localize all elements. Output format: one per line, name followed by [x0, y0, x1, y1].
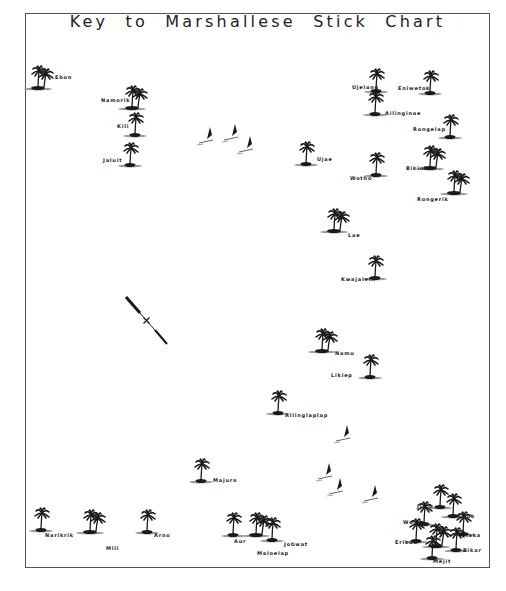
- island-label: Wotje: [403, 519, 423, 525]
- island-label: Rongerik: [417, 196, 449, 202]
- island-marker: [29, 508, 53, 532]
- island-label: Ebon: [55, 74, 72, 80]
- canoe-icon: [316, 463, 332, 481]
- canoe-icon: [327, 478, 343, 496]
- island-label: Jobwat: [284, 541, 308, 547]
- island-label: Erikub: [395, 539, 418, 545]
- island-label: Arno: [154, 532, 171, 538]
- island-label: Ailuk: [457, 513, 475, 519]
- island-label: Namorik: [101, 97, 130, 103]
- island-label: Rongelap: [413, 126, 446, 132]
- island-marker: [189, 459, 213, 483]
- island-label: Maloelap: [257, 550, 289, 556]
- island-marker: [440, 171, 469, 195]
- island-marker: [364, 153, 388, 177]
- canoe-icon: [237, 136, 253, 154]
- island-label: Wotho: [350, 175, 372, 181]
- island-label: Kwajalein: [341, 276, 376, 282]
- island-label: Aur: [234, 538, 246, 544]
- island-label: Likiep: [331, 372, 353, 378]
- island-label: Narikrik: [45, 532, 74, 538]
- canoe-icon: [362, 485, 378, 503]
- island-label: Ailinginae: [385, 110, 421, 116]
- compass-needle-icon: [126, 297, 167, 344]
- island-marker: [24, 66, 53, 90]
- island-label: Kili: [117, 123, 129, 129]
- canoe-icon: [334, 425, 350, 443]
- island-marker: [76, 510, 105, 534]
- island-label: Eniwetok: [398, 85, 430, 91]
- island-marker: [294, 142, 318, 166]
- canoe-icon: [222, 124, 238, 142]
- canoe-icon: [197, 127, 213, 145]
- island-marker: [363, 92, 387, 116]
- island-marker: [358, 355, 382, 379]
- island-label: Majuro: [213, 477, 237, 483]
- island-label: Ailinglaplap: [285, 412, 328, 418]
- island-label: Jimo: [417, 503, 432, 509]
- island-label: Mili: [106, 545, 119, 551]
- island-label: Ujelang: [352, 84, 379, 90]
- island-marker: [418, 71, 442, 95]
- island-marker: [308, 329, 337, 353]
- island-label: Bikar: [463, 547, 482, 553]
- island-marker: [118, 143, 142, 167]
- island-label: Taka: [465, 532, 481, 538]
- island-label: Namu: [335, 350, 355, 356]
- island-marker: [221, 513, 245, 537]
- island-label: Lae: [348, 232, 360, 238]
- island-label: Bikini: [406, 165, 427, 171]
- island-marker: [135, 510, 159, 534]
- island-marker: [320, 209, 349, 233]
- island-label: Mejit: [433, 558, 451, 564]
- island-label: Jaluit: [103, 157, 122, 163]
- island-label: Ujae: [317, 156, 333, 162]
